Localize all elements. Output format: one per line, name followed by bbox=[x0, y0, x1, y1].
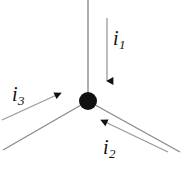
current-label-i2: i2 bbox=[103, 137, 115, 157]
branch-lower-right bbox=[88, 101, 180, 152]
current-label-i3-subscript: 3 bbox=[18, 93, 25, 108]
current-label-i2-base: i bbox=[103, 136, 109, 158]
current-arrow-i3 bbox=[2, 93, 61, 120]
current-label-i2-subscript: 2 bbox=[109, 146, 116, 161]
current-label-i1: i1 bbox=[113, 28, 125, 48]
current-label-i1-base: i bbox=[113, 27, 119, 49]
current-junction-figure: i1 i3 i2 bbox=[0, 0, 183, 171]
figure-canvas bbox=[0, 0, 183, 171]
junction-node bbox=[79, 92, 97, 110]
current-label-i3-base: i bbox=[12, 83, 18, 105]
branch-lower-left bbox=[3, 101, 88, 150]
current-label-i1-subscript: 1 bbox=[119, 37, 126, 52]
current-label-i3: i3 bbox=[12, 84, 24, 104]
